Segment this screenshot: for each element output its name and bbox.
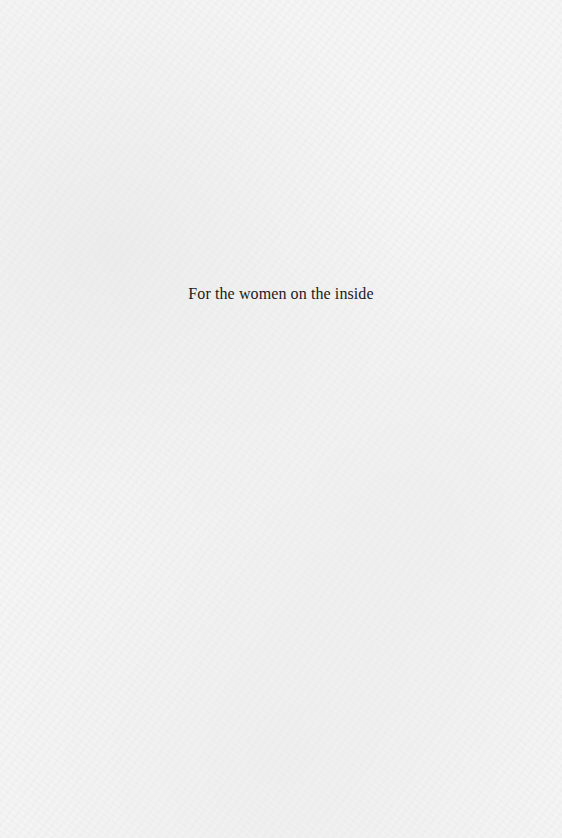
dedication-text: For the women on the inside xyxy=(0,284,562,304)
book-page: For the women on the inside xyxy=(0,0,562,838)
